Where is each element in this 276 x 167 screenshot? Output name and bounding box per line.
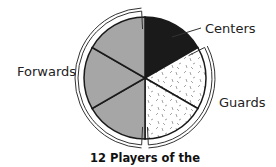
pie-chart: Centers Forwards Guards 12 Players of th…: [0, 0, 276, 167]
label-guards: Guards: [219, 95, 266, 110]
label-forwards: Forwards: [17, 64, 76, 79]
chart-title: 12 Players of the: [90, 151, 200, 165]
label-centers: Centers: [205, 21, 256, 36]
